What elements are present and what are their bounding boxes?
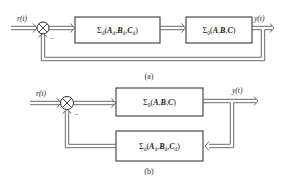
output-arrow-a: [252, 24, 274, 33]
output-label-a: y(t): [253, 14, 265, 23]
caption-b: (b): [144, 167, 154, 176]
feedback-path-block-to-junction-b: [63, 110, 117, 148]
caption-a: (a): [145, 72, 154, 81]
feedback-sign-b: −: [75, 111, 79, 117]
arrow-disturbance-to-plant-a: [160, 24, 186, 33]
input-arrow-a: [11, 24, 37, 33]
summing-junction-a: [37, 22, 49, 34]
input-label-b: r(t): [36, 89, 47, 98]
arrow-junction-to-disturbance-a: [49, 24, 75, 33]
diagram-b: r(t) − Σ0(A,B,C) y(t): [30, 86, 258, 176]
input-label-a: r(t): [17, 14, 28, 23]
output-label-b: y(t): [231, 86, 243, 95]
block-diagram-canvas: r(t) − Σd(Ad,Bd,Cd): [0, 0, 284, 188]
feedback-sign-a: −: [50, 35, 54, 41]
plant-block-a: Σ0(A,B,C): [186, 17, 252, 43]
diagram-a: r(t) − Σd(Ad,Bd,Cd): [11, 14, 274, 81]
input-arrow-b: [30, 99, 61, 108]
feedback-path-output-to-block-b: [205, 103, 234, 151]
summing-junction-b: [61, 97, 74, 110]
disturbance-block-a: Σd(Ad,Bd,Cd): [75, 17, 160, 43]
arrow-junction-to-plant-b: [74, 99, 116, 108]
feedback-block-b: Σd(Ad,Bd,Cd): [116, 131, 203, 161]
plant-block-b: Σ0(A,B,C): [116, 88, 203, 116]
